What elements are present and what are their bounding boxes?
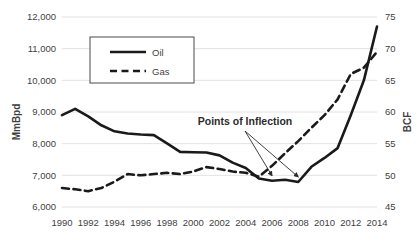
legend: OilGas [90,37,194,83]
x-axis-tick-label: 1996 [130,217,151,228]
chart-container: 6,0007,0008,0009,00010,00011,00012,00045… [0,0,420,245]
annotation-label: Points of Inflection [198,115,293,127]
x-axis-tick-label: 2008 [288,217,309,228]
y-axis-right-tick-label: 55 [385,138,396,149]
x-axis-tick-label: 1990 [51,217,72,228]
x-axis-tick-label: 2006 [261,217,282,228]
legend-label-gas: Gas [152,66,170,77]
y-axis-right-tick-label: 50 [385,170,396,181]
y-axis-right-tick-label: 75 [385,11,396,22]
dual-axis-line-chart: 6,0007,0008,0009,00010,00011,00012,00045… [0,0,420,245]
x-axis-tick-label: 2012 [340,217,361,228]
x-axis-tick-label: 1994 [104,217,125,228]
y-axis-left-tick-label: 12,000 [27,11,56,22]
y-axis-left-tick-label: 7,000 [32,170,56,181]
x-axis-tick-label: 1998 [156,217,177,228]
x-axis-tick-label: 2000 [183,217,204,228]
legend-box [90,37,194,83]
x-axis-tick-label: 2014 [366,217,387,228]
y-axis-left-tick-label: 9,000 [32,106,56,117]
x-axis-tick-label: 2010 [314,217,335,228]
y-axis-left-title: MmBpd [11,104,22,141]
y-axis-left-tick-label: 11,000 [28,43,56,54]
y-axis-left-tick-label: 6,000 [32,201,56,212]
y-axis-right-title: BCF [402,112,413,133]
x-axis-tick-label: 2002 [209,217,230,228]
x-axis-tick-label: 1992 [78,217,99,228]
y-axis-left-tick-label: 8,000 [32,138,56,149]
legend-label-oil: Oil [152,47,164,58]
y-axis-right-tick-label: 45 [385,201,396,212]
x-axis-tick-label: 2004 [235,217,256,228]
y-axis-right-tick-label: 60 [385,106,396,117]
y-axis-right-tick-label: 70 [385,43,396,54]
y-axis-left-tick-label: 10,000 [27,75,56,86]
y-axis-right-tick-label: 65 [385,75,396,86]
